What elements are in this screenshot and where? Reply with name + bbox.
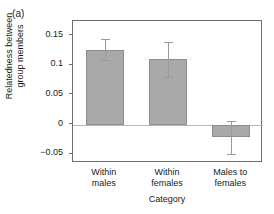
- error-bar-cap-1-lower: [164, 77, 173, 78]
- y-tick-label: 0: [58, 119, 63, 128]
- error-bar-cap-2-upper: [227, 121, 236, 122]
- error-bar-line-0: [105, 39, 106, 60]
- y-tick-label: −0.05: [40, 148, 63, 157]
- y-axis-title-line1: Relatedness between: [4, 13, 14, 100]
- error-bar-line-1: [168, 42, 169, 77]
- x-axis-title: Category: [72, 194, 262, 204]
- y-tick-label: 0.15: [45, 30, 63, 39]
- error-bar-cap-0-lower: [101, 60, 110, 61]
- y-axis-title: Relatedness between group members: [0, 0, 30, 116]
- x-tick-label-line1: Within: [91, 167, 116, 177]
- y-axis-title-line2: group members: [15, 13, 26, 100]
- error-bar-cap-2-lower: [227, 154, 236, 155]
- figure-panel-a: (a) Relatedness between group members 0.…: [0, 0, 274, 214]
- error-bar-cap-1-upper: [164, 42, 173, 43]
- x-tick-label-line2: females: [192, 178, 268, 189]
- x-tick-label-2: Males tofemales: [192, 167, 268, 189]
- y-tick-label: 0.1: [50, 59, 63, 68]
- error-bar-line-2: [231, 121, 232, 154]
- x-tick-label-line1: Within: [154, 167, 179, 177]
- plot-area: [72, 20, 262, 162]
- y-tick-label: 0.05: [45, 89, 63, 98]
- error-bar-cap-0-upper: [101, 39, 110, 40]
- bar-0: [86, 50, 124, 125]
- x-tick-label-line1: Males to: [213, 167, 247, 177]
